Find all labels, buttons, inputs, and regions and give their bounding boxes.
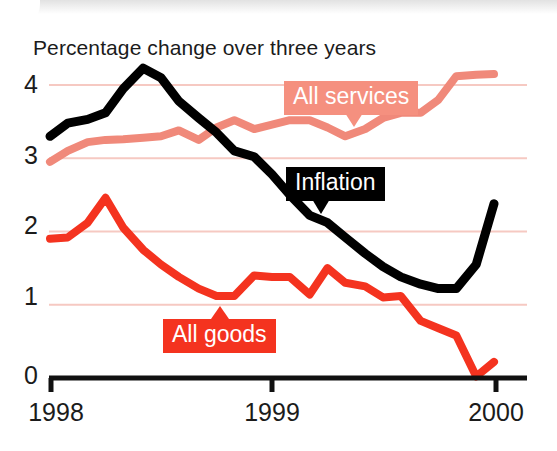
chart-page: Percentage change over three years 4 3 2… (0, 0, 557, 451)
x-tick-label-2000: 2000 (436, 398, 556, 427)
series-line-all-services (50, 74, 494, 162)
x-axis (49, 378, 527, 392)
legend-callout-all-goods: All goods (163, 319, 276, 353)
y-tick-label-0: 0 (8, 361, 38, 390)
legend-callout-inflation: Inflation (286, 167, 385, 201)
series-line-inflation (50, 68, 494, 288)
legend-callout-inflation-pointer (312, 199, 330, 214)
legend-callout-all-services-pointer (345, 113, 363, 127)
legend-callout-all-services: All services (284, 81, 418, 115)
x-tick-label-1998: 1998 (0, 398, 116, 427)
y-tick-label-4: 4 (8, 70, 38, 99)
y-tick-label-3: 3 (8, 141, 38, 170)
y-tick-label-2: 2 (8, 211, 38, 240)
chart-plot (0, 0, 557, 451)
y-tick-label-1: 1 (8, 282, 38, 311)
legend-callout-all-goods-pointer (211, 306, 229, 319)
x-tick-label-1999: 1999 (212, 398, 332, 427)
